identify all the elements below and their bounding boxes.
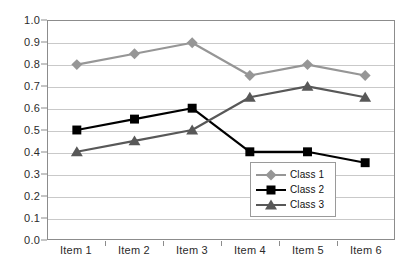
y-tick-label: 0.4 bbox=[24, 146, 40, 158]
data-point-marker bbox=[245, 147, 254, 156]
y-tick-mark bbox=[41, 174, 47, 175]
legend-label: Class 1 bbox=[290, 169, 324, 180]
y-tick-mark bbox=[41, 218, 47, 219]
y-tick-mark bbox=[41, 130, 47, 131]
y-tick-mark bbox=[41, 20, 47, 21]
square-marker-icon bbox=[264, 183, 278, 197]
y-tick-label: 0.9 bbox=[24, 36, 40, 48]
y-tick-mark bbox=[41, 86, 47, 87]
y-tick-mark bbox=[41, 196, 47, 197]
y-tick-mark bbox=[41, 152, 47, 153]
y-axis: 0.00.10.20.30.40.50.60.70.80.91.0 bbox=[0, 20, 40, 240]
diamond-marker-icon bbox=[264, 168, 278, 182]
y-tick-label: 0.8 bbox=[24, 58, 40, 70]
legend-label: Class 2 bbox=[290, 184, 324, 195]
series-line bbox=[77, 86, 365, 151]
data-point-marker bbox=[130, 115, 139, 124]
y-tick-mark bbox=[41, 64, 47, 65]
series-line bbox=[77, 43, 365, 76]
x-tick-mark bbox=[221, 241, 222, 246]
data-point-marker bbox=[302, 59, 313, 70]
x-tick-label: Item 5 bbox=[292, 244, 324, 256]
y-tick-label: 1.0 bbox=[24, 14, 40, 26]
x-tick-label: Item 2 bbox=[118, 244, 150, 256]
triangle-marker-icon bbox=[264, 198, 278, 212]
x-axis: Item 1Item 2Item 3Item 4Item 5Item 6 bbox=[47, 244, 395, 264]
legend-swatch bbox=[256, 199, 286, 211]
data-point-marker bbox=[72, 126, 81, 135]
series-line bbox=[77, 108, 365, 163]
x-tick-label: Item 1 bbox=[60, 244, 92, 256]
x-tick-mark bbox=[279, 241, 280, 246]
legend-swatch bbox=[256, 184, 286, 196]
legend-label: Class 3 bbox=[290, 199, 324, 210]
line-chart: 0.00.10.20.30.40.50.60.70.80.91.0 Item 1… bbox=[0, 0, 416, 276]
y-tick-label: 0.0 bbox=[24, 234, 40, 246]
data-point-marker bbox=[361, 158, 370, 167]
legend-item[interactable]: Class 2 bbox=[256, 182, 330, 197]
series-class-1 bbox=[71, 37, 370, 81]
legend-item[interactable]: Class 1 bbox=[256, 167, 330, 182]
y-tick-label: 0.1 bbox=[24, 212, 40, 224]
legend: Class 1Class 2Class 3 bbox=[250, 162, 336, 217]
y-tick-mark bbox=[41, 240, 47, 241]
data-point-marker bbox=[71, 59, 82, 70]
legend-swatch bbox=[256, 169, 286, 181]
data-point-marker bbox=[265, 199, 277, 209]
data-point-marker bbox=[129, 48, 140, 59]
y-tick-mark bbox=[41, 42, 47, 43]
data-point-marker bbox=[244, 70, 255, 81]
series-class-3 bbox=[71, 81, 371, 156]
y-tick-label: 0.6 bbox=[24, 102, 40, 114]
y-tick-label: 0.5 bbox=[24, 124, 40, 136]
x-tick-label: Item 4 bbox=[234, 244, 266, 256]
x-tick-mark bbox=[337, 241, 338, 246]
data-point-marker bbox=[303, 147, 312, 156]
data-point-marker bbox=[302, 81, 314, 91]
data-point-marker bbox=[188, 104, 197, 113]
x-tick-mark bbox=[163, 241, 164, 246]
data-point-marker bbox=[267, 185, 276, 194]
plot-area bbox=[47, 20, 395, 240]
data-point-marker bbox=[360, 70, 371, 81]
data-point-marker bbox=[187, 37, 198, 48]
y-tick-mark bbox=[41, 108, 47, 109]
y-tick-label: 0.3 bbox=[24, 168, 40, 180]
x-tick-label: Item 6 bbox=[350, 244, 382, 256]
legend-item[interactable]: Class 3 bbox=[256, 197, 330, 212]
y-tick-label: 0.2 bbox=[24, 190, 40, 202]
x-tick-mark bbox=[105, 241, 106, 246]
x-tick-label: Item 3 bbox=[176, 244, 208, 256]
data-point-marker bbox=[186, 125, 198, 135]
data-point-marker bbox=[266, 169, 277, 180]
series-layer bbox=[48, 21, 394, 239]
y-tick-label: 0.7 bbox=[24, 80, 40, 92]
